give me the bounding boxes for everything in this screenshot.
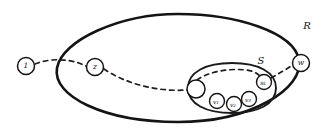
node-v1: v1 bbox=[210, 94, 225, 109]
node-z-label: z bbox=[92, 62, 97, 71]
node-v1-subscript: 1 bbox=[216, 100, 219, 105]
dashed-walk bbox=[35, 60, 293, 91]
node-s-subscript: k bbox=[263, 81, 266, 86]
node-s: sk bbox=[257, 75, 272, 90]
set-diagram: R S 1 z w bbox=[0, 0, 334, 137]
node-w: w bbox=[293, 55, 310, 72]
node-empty-circle bbox=[187, 80, 205, 98]
node-empty bbox=[187, 80, 205, 98]
node-one: 1 bbox=[18, 58, 35, 75]
region-outer-R-label: R bbox=[302, 20, 311, 31]
edge-z-to-empty bbox=[104, 69, 187, 90]
node-one-label: 1 bbox=[24, 61, 29, 70]
node-v3: v3 bbox=[242, 92, 257, 107]
node-v2: v2 bbox=[227, 97, 242, 112]
diagram-canvas: R S 1 z w bbox=[0, 0, 334, 137]
edge-s-to-w bbox=[271, 65, 293, 78]
node-z: z bbox=[87, 59, 104, 76]
edge-empty-to-s bbox=[197, 69, 262, 80]
node-v2-subscript: 2 bbox=[232, 103, 236, 108]
region-inner-S-label: S bbox=[258, 55, 265, 66]
node-w-label: w bbox=[298, 58, 305, 67]
node-v3-subscript: 3 bbox=[248, 98, 251, 103]
